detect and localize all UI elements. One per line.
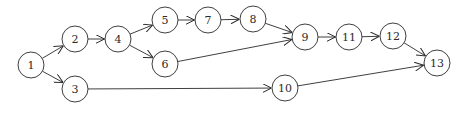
edge-12-to-13 (404, 43, 425, 56)
node-6: 6 (152, 51, 178, 77)
node-label: 8 (250, 13, 257, 26)
nodes-layer: 12345678910111213 (18, 6, 450, 102)
edge-4-to-6 (129, 45, 153, 58)
edge-10-to-13 (298, 65, 424, 86)
node-7: 7 (195, 7, 221, 33)
node-2: 2 (62, 26, 88, 52)
node-label: 6 (162, 58, 169, 71)
edge-3-to-10 (88, 88, 272, 89)
node-label: 10 (278, 82, 292, 95)
node-11: 11 (336, 24, 362, 50)
node-label: 3 (72, 83, 79, 96)
edge-6-to-9 (178, 40, 292, 62)
node-4: 4 (105, 26, 131, 52)
node-8: 8 (240, 6, 266, 32)
network-diagram: 12345678910111213 (0, 0, 469, 114)
node-10: 10 (272, 75, 298, 101)
node-13: 13 (424, 50, 450, 76)
node-label: 13 (430, 57, 444, 70)
node-1: 1 (18, 52, 44, 78)
node-label: 5 (162, 14, 169, 27)
node-12: 12 (380, 23, 406, 49)
node-5: 5 (152, 7, 178, 33)
node-3: 3 (62, 76, 88, 102)
node-label: 2 (72, 33, 79, 46)
edges-layer (42, 19, 425, 89)
edge-1-to-2 (42, 46, 63, 59)
node-label: 11 (342, 31, 356, 44)
node-label: 9 (302, 31, 309, 44)
edge-8-to-9 (265, 23, 292, 32)
node-9: 9 (292, 24, 318, 50)
edge-4-to-5 (130, 25, 152, 34)
node-label: 1 (28, 59, 35, 72)
node-label: 7 (205, 14, 212, 27)
node-label: 12 (386, 30, 400, 43)
edge-1-to-3 (42, 71, 63, 82)
node-label: 4 (115, 33, 122, 46)
